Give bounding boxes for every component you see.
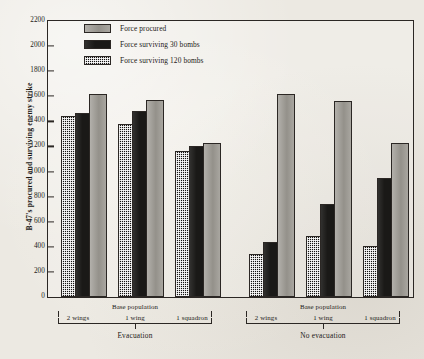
bar-procured — [391, 143, 409, 297]
panel-label: Evacuation — [117, 331, 152, 340]
bar-procured — [146, 100, 164, 297]
bars-layer — [0, 0, 424, 359]
panel-bracket-cap — [211, 318, 212, 324]
panel-bracket-stem — [135, 324, 136, 329]
bar-procured — [334, 101, 352, 297]
bar-procured — [89, 94, 107, 297]
panel-bracket — [246, 311, 400, 317]
panel-label: No evacuation — [300, 331, 346, 340]
panel-bracket-cap — [399, 318, 400, 324]
panel-bracket-cap — [246, 318, 247, 324]
bar-procured — [203, 143, 221, 297]
panel-bracket-cap — [58, 318, 59, 324]
panel-bracket-stem — [323, 324, 324, 329]
base-population-label: Base population — [300, 303, 346, 310]
base-population-label: Base population — [112, 303, 158, 310]
panel-bracket — [58, 311, 212, 317]
bar-procured — [277, 94, 295, 297]
bar-chart: 2200200018001600140012001000800600400200… — [0, 0, 424, 359]
